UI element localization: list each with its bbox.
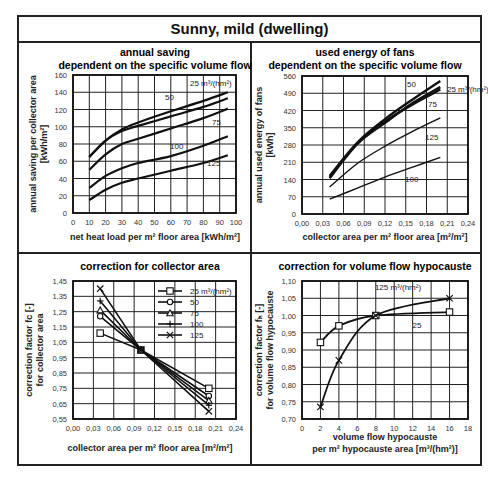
- y-tick-label: 0,75: [52, 384, 67, 393]
- y-axis-unit: [kWh/m²]: [39, 125, 49, 164]
- y-axis-label: annual saving per collector area: [28, 74, 38, 213]
- curve-label: 75: [428, 100, 437, 109]
- panel-fan-energy: used energy of fans dependent on the spe…: [254, 46, 475, 242]
- y-tick-label: 20: [59, 192, 67, 201]
- x-tick-label: 0,15: [398, 219, 413, 228]
- x-tick-label: 0: [300, 424, 304, 433]
- x-axis-label: collector area per m² floor area [m²/m²]: [302, 232, 467, 242]
- panel-subtitle: dependent on the specific volume flow: [58, 59, 252, 71]
- y-tick-label: 160: [54, 71, 67, 80]
- x-tick-label: 0,03: [315, 219, 330, 228]
- x-tick-label: 0,00: [66, 424, 81, 433]
- curve-label: 50: [407, 80, 416, 89]
- panel-title: correction for volume flow hypocauste: [278, 260, 471, 272]
- legend-item: 25 m³/(hm²): [190, 287, 232, 296]
- curve-label: 125: [425, 133, 439, 142]
- x-axis-label: collector area per m² floor area [m²/m²]: [67, 443, 232, 453]
- panel-title: annual saving: [120, 46, 190, 58]
- legend-item: 75: [190, 309, 199, 318]
- x-tick-label: 50: [150, 218, 158, 227]
- x-tick-label: 30: [118, 218, 126, 227]
- y-tick-label: 1,25: [52, 308, 67, 317]
- x-axis-label: volume flow hypocauste: [333, 432, 438, 442]
- panel-subtitle: dependent on the specific volume flow: [268, 59, 462, 71]
- x-tick-label: 0,15: [168, 424, 183, 433]
- y-tick-label: 280: [283, 141, 296, 150]
- x-tick-label: 0,03: [86, 424, 101, 433]
- legend-item: 50: [190, 298, 199, 307]
- panel-collector-correction: correction for collector area 0,000,030,…: [24, 260, 243, 453]
- x-tick-label: 20: [101, 218, 109, 227]
- y-tick-label: 1,05: [52, 338, 67, 347]
- x-tick-label: 2: [318, 424, 322, 433]
- legend-item: 125: [190, 331, 204, 340]
- y-axis-unit: for volume flow hypocauste: [265, 290, 275, 409]
- x-tick-label: 0,12: [378, 219, 393, 228]
- y-tick-label: 0,85: [52, 369, 67, 378]
- x-tick-label: 60: [167, 218, 175, 227]
- x-tick-label: 0,12: [147, 424, 162, 433]
- panel-annual-saving: annual saving dependent on the specific …: [28, 46, 252, 242]
- curve-label: 125 m³/(hm²): [375, 283, 422, 292]
- x-axis-label-line2: per m² hypocauste area [m³/(hm²)]: [312, 444, 458, 454]
- plot-area: 0,000,030,060,090,120,150,180,210,240,55…: [52, 277, 243, 433]
- plot-area: 0102030405060708090100020406080100120140…: [54, 71, 242, 227]
- x-tick-label: 0,18: [188, 424, 203, 433]
- y-tick-label: 0,95: [281, 329, 296, 338]
- x-tick-label: 16: [445, 424, 453, 433]
- x-tick-label: 0,21: [208, 424, 223, 433]
- y-tick-label: 210: [283, 158, 296, 167]
- y-axis-unit: [kWh]: [265, 133, 275, 158]
- y-tick-label: 140: [283, 176, 296, 185]
- curve-label: 25: [413, 321, 422, 330]
- y-tick-label: 1,45: [52, 277, 67, 286]
- y-tick-label: 350: [283, 124, 296, 133]
- x-tick-label: 0,18: [419, 219, 434, 228]
- x-tick-label: 100: [230, 218, 243, 227]
- y-tick-label: 0,70: [281, 415, 296, 424]
- y-tick-label: 60: [59, 157, 67, 166]
- x-tick-label: 90: [216, 218, 224, 227]
- y-tick-label: 140: [54, 88, 67, 97]
- curve-label: 100: [405, 175, 419, 184]
- y-tick-label: 1,35: [52, 292, 67, 301]
- x-tick-label: 0,24: [229, 424, 244, 433]
- y-axis-label: annual used energy of fans: [254, 87, 264, 204]
- y-tick-label: 490: [283, 89, 296, 98]
- y-axis-label: correction factor fₕ [-]: [254, 304, 264, 397]
- x-tick-label: 0,21: [440, 219, 455, 228]
- panel-hypocaust-correction: correction for volume flow hypocauste 02…: [254, 260, 472, 454]
- plot-area: 0,000,030,060,090,120,150,180,210,240701…: [283, 72, 475, 228]
- y-axis-unit: for collector area: [35, 312, 45, 386]
- legend-item: 100: [190, 320, 204, 329]
- curve-label: 50: [165, 93, 174, 102]
- y-tick-label: 120: [54, 106, 67, 115]
- panel-title: correction for collector area: [80, 260, 220, 272]
- y-tick-label: 0,95: [52, 354, 67, 363]
- charts-canvas: annual saving dependent on the specific …: [0, 0, 488, 479]
- y-tick-label: 420: [283, 107, 296, 116]
- y-tick-label: 0,75: [281, 398, 296, 407]
- y-tick-label: 100: [54, 123, 67, 132]
- y-tick-label: 40: [59, 175, 67, 184]
- y-axis-label: correction factor fc [-]: [24, 303, 34, 397]
- x-tick-label: 0,09: [357, 219, 372, 228]
- y-tick-label: 560: [283, 72, 296, 81]
- curve-label: 125: [207, 159, 221, 168]
- y-tick-label: 80: [59, 140, 67, 149]
- y-tick-label: 0: [63, 209, 67, 218]
- y-tick-label: 0,55: [52, 415, 67, 424]
- y-tick-label: 0,90: [281, 346, 296, 355]
- curve-label: 75: [212, 118, 221, 127]
- y-tick-label: 0,65: [52, 400, 67, 409]
- curve-label: 25 m³/(hm²): [190, 79, 232, 88]
- x-tick-label: 0,00: [295, 219, 310, 228]
- x-tick-label: 0,06: [106, 424, 121, 433]
- x-tick-label: 40: [134, 218, 142, 227]
- y-tick-label: 0,85: [281, 363, 296, 372]
- x-tick-label: 18: [464, 424, 472, 433]
- x-tick-label: 0: [71, 218, 75, 227]
- x-tick-label: 70: [183, 218, 191, 227]
- curve-label: 25 m³/(hm²): [447, 85, 488, 94]
- y-tick-label: 1,00: [281, 312, 296, 321]
